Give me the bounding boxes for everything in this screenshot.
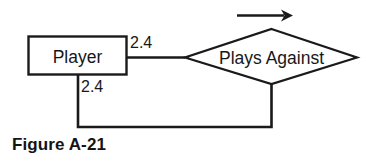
connector-lower-recursive [78,74,272,127]
relationship-label-plays-against: Plays Against [219,48,324,68]
direction-arrow-icon [237,10,293,22]
cardinality-label-lower: 2.4 [81,78,103,95]
cardinality-label-upper: 2.4 [130,34,152,51]
entity-label-player: Player [53,47,103,67]
figure-container: Player Plays Against 2.4 2.4 Figure A-21 [0,0,366,162]
figure-caption: Figure A-21 [12,135,106,155]
